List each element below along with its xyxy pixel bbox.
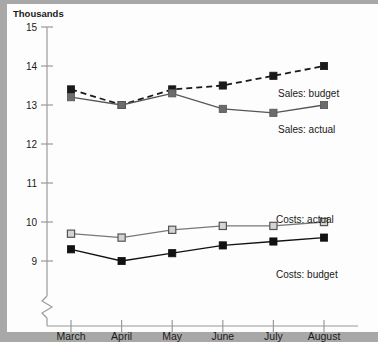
y-tick-label: 11 — [27, 178, 38, 189]
y-tick-label: 15 — [26, 22, 38, 33]
data-point-marker — [270, 109, 277, 116]
y-axis-ticks: 1514131211109 — [26, 22, 53, 267]
x-tick-label: June — [211, 330, 234, 342]
data-point-marker — [118, 101, 125, 108]
series-annotations: Sales: budgetSales: actualCosts: actualC… — [276, 88, 339, 280]
data-point-marker — [169, 226, 176, 233]
data-point-marker — [118, 257, 125, 264]
data-point-marker — [67, 86, 74, 93]
series-line — [71, 66, 324, 105]
x-tick-label: August — [308, 330, 341, 342]
data-point-marker — [219, 242, 226, 249]
y-tick-label: 9 — [31, 256, 37, 267]
x-tick-label: April — [111, 330, 132, 342]
data-point-marker — [320, 101, 327, 108]
x-axis-ticks: MarchAprilMayJuneJulyAugust — [56, 320, 340, 342]
data-point-marker — [67, 246, 74, 253]
data-point-marker — [219, 105, 226, 112]
series-label-sales-budget: Sales: budget — [278, 88, 339, 99]
y-axis-title: Thousands — [13, 8, 64, 19]
series-line — [71, 238, 324, 261]
series-costs-budget — [67, 234, 327, 265]
x-tick-label: May — [162, 330, 183, 342]
axis-break-icon — [42, 296, 52, 318]
x-tick-label: March — [56, 330, 85, 342]
data-point-marker — [67, 94, 74, 101]
data-point-marker — [320, 234, 327, 241]
y-tick-label: 14 — [26, 61, 38, 72]
data-point-marker — [270, 238, 277, 245]
series-label-costs-actual: Costs: actual — [276, 214, 334, 225]
y-tick-label: 10 — [26, 217, 38, 228]
data-point-marker — [270, 72, 277, 79]
y-tick-label: 13 — [26, 100, 38, 111]
y-tick-label: 12 — [26, 139, 38, 150]
data-point-marker — [169, 250, 176, 257]
data-point-marker — [219, 222, 226, 229]
chart-figure: 1514131211109 MarchAprilMayJuneJulyAugus… — [0, 0, 378, 342]
series-label-sales-actual: Sales: actual — [278, 124, 335, 135]
data-point-marker — [219, 82, 226, 89]
data-point-marker — [118, 234, 125, 241]
x-tick-label: July — [264, 330, 283, 342]
series-label-costs-budget: Costs: budget — [276, 269, 338, 280]
line-chart: 1514131211109 MarchAprilMayJuneJulyAugus… — [0, 0, 378, 342]
data-point-marker — [320, 62, 327, 69]
data-point-marker — [169, 90, 176, 97]
data-point-marker — [67, 230, 74, 237]
